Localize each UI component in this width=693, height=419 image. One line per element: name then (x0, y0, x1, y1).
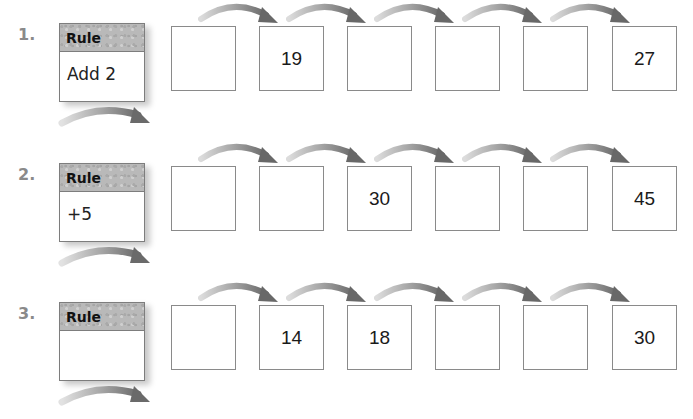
rule-curved-arrow-icon (58, 380, 158, 410)
curved-arrow-icon (198, 141, 282, 167)
problem-number: 1. (18, 25, 35, 44)
sequence-box-6[interactable]: 27 (612, 26, 677, 91)
curved-arrow-icon (286, 141, 370, 167)
curved-arrow-icon (286, 1, 370, 27)
sequence-box-5[interactable] (523, 26, 588, 91)
curved-arrow-icon (374, 1, 458, 27)
curved-arrow-icon (374, 141, 458, 167)
curved-arrow-icon (374, 280, 458, 306)
sequence-box-6[interactable]: 45 (612, 166, 677, 231)
problem-number: 3. (18, 304, 35, 323)
sequence-box-3[interactable]: 30 (347, 166, 412, 231)
rule-value[interactable]: +5 (60, 192, 144, 239)
rule-value[interactable] (60, 331, 144, 378)
rule-header: Rule (60, 303, 144, 331)
sequence-box-1[interactable] (171, 166, 236, 231)
sequence-box-5[interactable] (523, 305, 588, 370)
sequence-box-2[interactable] (259, 166, 324, 231)
curved-arrow-icon (198, 280, 282, 306)
rule-box: Rule Add 2 (59, 23, 145, 102)
sequence-box-2[interactable]: 14 (259, 305, 324, 370)
curved-arrow-icon (550, 1, 634, 27)
sequence-box-5[interactable] (523, 166, 588, 231)
curved-arrow-icon (286, 280, 370, 306)
curved-arrow-icon (462, 1, 546, 27)
problem-number: 2. (18, 165, 35, 184)
curved-arrow-icon (198, 1, 282, 27)
sequence-box-2[interactable]: 19 (259, 26, 324, 91)
curved-arrow-icon (550, 280, 634, 306)
rule-box: Rule (59, 302, 145, 381)
curved-arrow-icon (462, 141, 546, 167)
problem-3: 3. Rule 14 18 30 (0, 302, 693, 419)
sequence-box-1[interactable] (171, 305, 236, 370)
sequence-box-4[interactable] (435, 305, 500, 370)
rule-value[interactable]: Add 2 (60, 52, 144, 99)
curved-arrow-icon (550, 141, 634, 167)
sequence-box-6[interactable]: 30 (612, 305, 677, 370)
sequence-box-3[interactable]: 18 (347, 305, 412, 370)
sequence-box-4[interactable] (435, 166, 500, 231)
sequence-box-3[interactable] (347, 26, 412, 91)
rule-box: Rule +5 (59, 163, 145, 242)
rule-header: Rule (60, 164, 144, 192)
rule-curved-arrow-icon (58, 101, 158, 131)
sequence-box-1[interactable] (171, 26, 236, 91)
curved-arrow-icon (462, 280, 546, 306)
rule-header: Rule (60, 24, 144, 52)
sequence-box-4[interactable] (435, 26, 500, 91)
rule-curved-arrow-icon (58, 241, 158, 271)
